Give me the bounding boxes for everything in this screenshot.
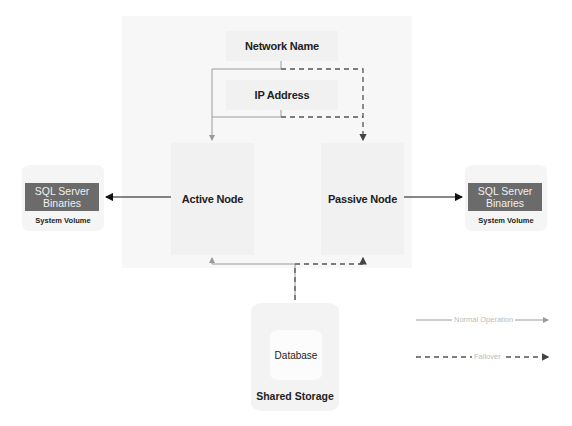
normal-line-network-to-active	[212, 61, 281, 140]
connector-layer	[0, 0, 572, 426]
legend-normal-label: Normal Operation	[452, 315, 515, 324]
legend-failover-label: Failover	[472, 352, 503, 361]
failover-line-storage-to-passive	[295, 258, 363, 264]
failover-line-network-to-passive	[281, 69, 363, 140]
normal-line-storage-to-active	[212, 258, 295, 300]
normal-line-ip-to-active	[212, 110, 281, 117]
